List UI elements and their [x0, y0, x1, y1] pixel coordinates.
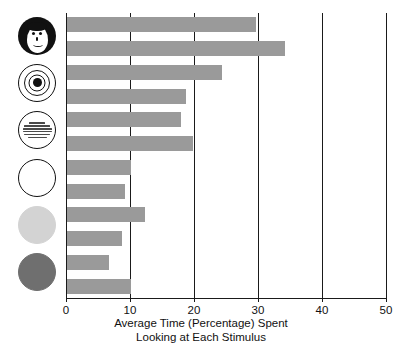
bar-dark-gray-10 [67, 255, 109, 270]
newsprint-line [29, 122, 45, 124]
stimulus-cell-bullseye [12, 59, 62, 106]
newsprint-icon [18, 111, 56, 149]
x-tick-0 [66, 298, 67, 302]
bar-face-0 [67, 17, 256, 32]
bar-light-gray-9 [67, 231, 122, 246]
bar-newsprint-5 [67, 136, 192, 151]
newsprint-line [23, 128, 52, 130]
bar-chart-figure: 01020304050 Average Time (Percentage) Sp… [0, 0, 402, 352]
bar-bullseye-2 [67, 65, 222, 80]
x-axis-title: Average Time (Percentage) Spent Looking … [0, 316, 402, 344]
newsprint-line [24, 134, 50, 136]
stimulus-cell-dark-gray-circle [12, 249, 62, 296]
stimulus-cell-face [12, 12, 62, 59]
bar-white-7 [67, 184, 125, 199]
newsprint-line [28, 137, 47, 139]
x-tick-50 [386, 298, 387, 302]
x-tick-40 [322, 298, 323, 302]
gridline-40 [322, 13, 323, 298]
x-axis-title-line-1: Average Time (Percentage) Spent [0, 316, 402, 330]
dark-gray-circle-icon [18, 253, 56, 291]
x-tick-20 [194, 298, 195, 302]
stimulus-cell-newsprint [12, 107, 62, 154]
face-left-eye [32, 32, 35, 35]
plot-area: 01020304050 [66, 13, 386, 298]
bar-white-6 [67, 160, 131, 175]
newsprint-line [24, 125, 50, 127]
newsprint-text-lines [19, 112, 55, 148]
stimulus-icon-column [12, 12, 62, 296]
stimulus-cell-light-gray-circle [12, 201, 62, 248]
face-nose [36, 37, 38, 41]
bar-light-gray-8 [67, 207, 144, 222]
bullseye-center-dot [33, 78, 42, 87]
x-axis-line [66, 298, 386, 299]
face-hair-shape [27, 22, 47, 31]
white-circle-icon [18, 159, 56, 197]
bar-dark-gray-11 [67, 279, 131, 294]
bar-face-1 [67, 41, 285, 56]
bar-newsprint-4 [67, 112, 181, 127]
newsprint-line [23, 131, 52, 133]
x-tick-10 [130, 298, 131, 302]
face-icon [18, 17, 56, 55]
light-gray-circle-icon [18, 206, 56, 244]
x-axis-title-line-2: Looking at Each Stimulus [0, 330, 402, 344]
x-tick-30 [258, 298, 259, 302]
gridline-50 [386, 13, 387, 298]
bullseye-icon [18, 64, 56, 102]
bar-bullseye-3 [67, 89, 185, 104]
stimulus-cell-white-circle [12, 154, 62, 201]
